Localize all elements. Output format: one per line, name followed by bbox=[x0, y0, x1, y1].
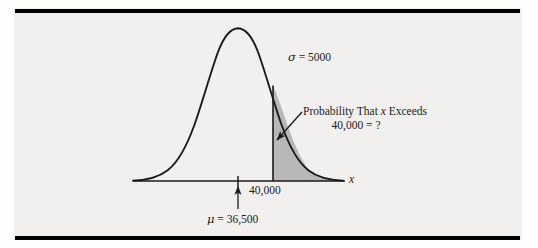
sigma-value: = 5000 bbox=[296, 51, 331, 63]
mean-label: μ = 36,500 bbox=[207, 212, 258, 226]
sigma-symbol: σ bbox=[288, 50, 296, 64]
callout-line1-prefix: Probability That bbox=[303, 105, 381, 117]
x-axis-label: x bbox=[349, 172, 354, 186]
mu-value: = 36,500 bbox=[214, 213, 258, 225]
callout-line1-suffix: Exceeds bbox=[386, 105, 427, 117]
figure-normal-distribution: σ = 5000 μ = 36,500 40,000 x Probability… bbox=[0, 0, 538, 248]
sigma-label: σ = 5000 bbox=[288, 50, 331, 64]
callout-line2: 40,000 = ? bbox=[303, 118, 427, 132]
probability-callout: Probability That x Exceeds 40,000 = ? bbox=[303, 104, 427, 132]
threshold-tick-label: 40,000 bbox=[249, 183, 281, 197]
distribution-plot bbox=[0, 0, 538, 248]
